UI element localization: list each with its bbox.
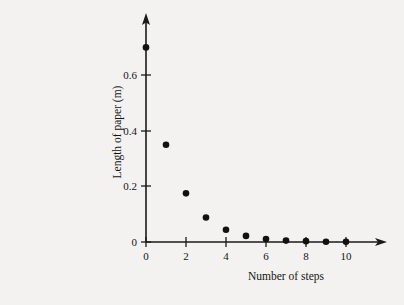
data-points-layer: [143, 44, 350, 245]
y-tick-label-0: 0: [132, 236, 138, 248]
chart-figure: 0 0.2 0.4 0.6 0 2 4 6 8 10 Number of ste…: [0, 0, 404, 305]
data-point: [263, 236, 270, 243]
data-point: [303, 238, 310, 245]
y-axis-title: Length of paper (m): [111, 85, 124, 178]
axes-group: [142, 13, 387, 246]
x-tick-label-2: 4: [223, 250, 229, 262]
y-tick-label-3: 0.6: [123, 69, 137, 81]
data-point: [283, 237, 290, 244]
data-point: [243, 233, 250, 240]
y-tick-labels: 0 0.2 0.4 0.6: [123, 69, 137, 248]
x-tick-label-4: 8: [303, 250, 309, 262]
data-point: [343, 238, 350, 245]
data-point: [143, 44, 150, 51]
data-point: [163, 141, 170, 148]
x-tick-labels: 0 2 4 6 8 10: [143, 250, 352, 262]
data-point: [203, 214, 210, 221]
y-tick-label-2: 0.4: [123, 125, 137, 137]
scatter-plot: 0 0.2 0.4 0.6 0 2 4 6 8 10 Number of ste…: [0, 0, 404, 305]
data-point: [323, 238, 330, 245]
x-tick-label-0: 0: [143, 250, 149, 262]
y-tick-label-1: 0.2: [123, 180, 137, 192]
x-tick-label-3: 6: [263, 250, 269, 262]
x-tick-label-1: 2: [183, 250, 189, 262]
data-point: [183, 190, 190, 197]
x-axis-title: Number of steps: [248, 270, 325, 283]
data-point: [223, 226, 230, 233]
x-tick-label-5: 10: [341, 250, 353, 262]
